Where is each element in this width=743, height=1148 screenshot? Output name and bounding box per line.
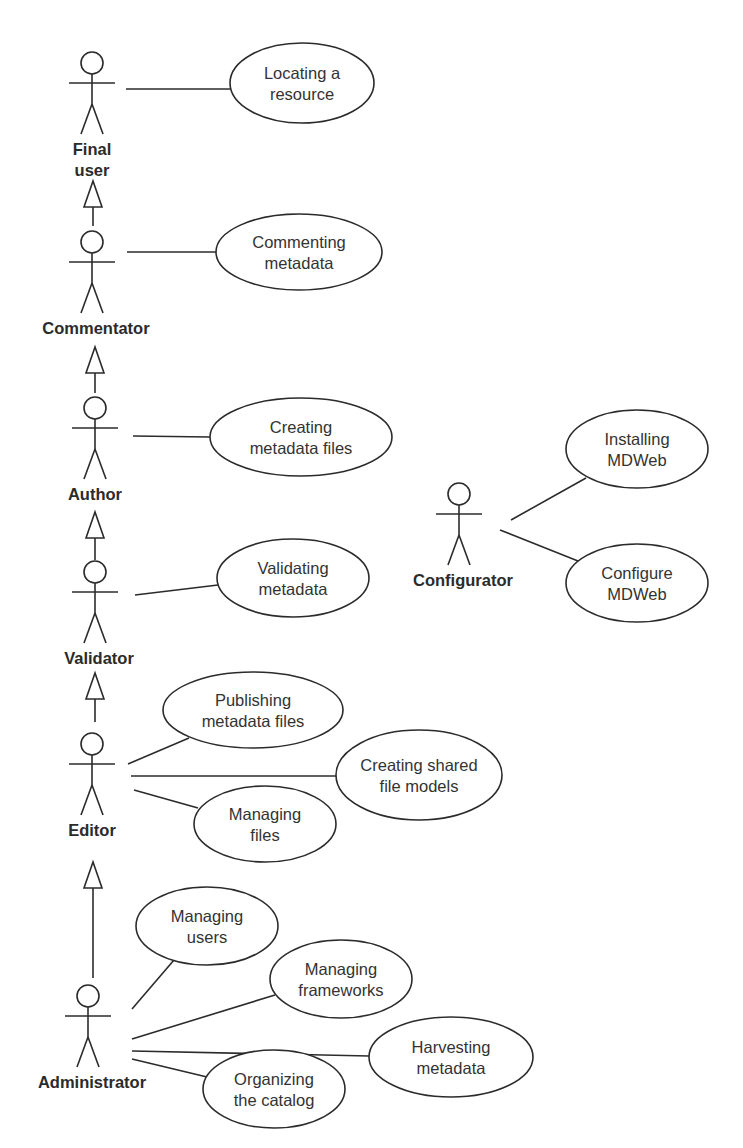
use-case-label: Managing	[305, 960, 377, 978]
association-line-configurator-installing	[511, 478, 586, 520]
use-case-label: Validating	[257, 559, 328, 577]
actor-label: user	[75, 161, 110, 179]
use-case-label: files	[250, 826, 279, 844]
use-case-label: Commenting	[252, 233, 346, 251]
use-case-ellipse	[163, 672, 343, 748]
stick-figure-icon	[69, 733, 115, 815]
hollow-triangle-arrow-icon	[86, 673, 104, 699]
use-case-label: file models	[380, 777, 459, 795]
actor-validator: Validator	[64, 561, 134, 667]
association-line-administrator-managing_frameworks	[132, 995, 275, 1039]
use-case-organizing: Organizingthe catalog	[203, 1050, 345, 1128]
stick-figure-icon	[436, 483, 482, 565]
generalization-commentator-to-final_user	[84, 181, 102, 226]
use-case-ellipse	[230, 43, 374, 123]
actor-label: Final	[73, 140, 112, 158]
generalization-author-to-commentator	[86, 347, 104, 393]
use-case-ellipse	[566, 410, 708, 488]
use-case-label: metadata files	[250, 439, 353, 457]
use-case-managing_frameworks: Managingframeworks	[270, 940, 412, 1018]
use-case-label: frameworks	[298, 981, 383, 999]
hollow-triangle-arrow-icon	[84, 862, 102, 888]
actor-editor: Editor	[68, 733, 116, 839]
use-case-label: Managing	[171, 907, 243, 925]
use-case-label: Managing	[229, 805, 301, 823]
use-case-label: Organizing	[234, 1070, 314, 1088]
use-case-harvesting: Harvestingmetadata	[369, 1017, 533, 1097]
use-case-validating: Validatingmetadata	[217, 539, 369, 617]
hollow-triangle-arrow-icon	[84, 181, 102, 207]
stick-figure-icon	[65, 985, 111, 1067]
use-case-label: the catalog	[234, 1091, 315, 1109]
stick-figure-icon	[72, 397, 118, 479]
use-case-managing_files: Managingfiles	[194, 786, 336, 862]
generalization-editor-to-validator	[86, 673, 104, 722]
actor-label: Administrator	[38, 1073, 147, 1091]
actor-label: Validator	[64, 649, 134, 667]
use-case-diagram: Locating aresourceCommentingmetadataCrea…	[0, 0, 743, 1148]
use-case-ellipse	[194, 786, 336, 862]
association-line-editor-managing_files	[134, 790, 198, 808]
use-case-label: metadata files	[202, 712, 305, 730]
use-case-ellipse	[336, 730, 502, 820]
use-case-label: Installing	[604, 430, 669, 448]
actor-commentator: Commentator	[42, 231, 150, 337]
use-case-label: MDWeb	[607, 585, 666, 603]
use-case-label: Creating shared	[360, 756, 477, 774]
generalization-validator-to-author	[86, 512, 104, 560]
association-line-validator-validating	[135, 585, 218, 595]
association-line-author-creating_files	[133, 436, 210, 437]
generalization-administrator-to-editor	[84, 862, 102, 978]
use-case-publishing: Publishingmetadata files	[163, 672, 343, 748]
stick-figure-icon	[72, 561, 118, 643]
actor-label: Editor	[68, 821, 116, 839]
actor-label: Author	[68, 485, 123, 503]
association-line-editor-publishing	[128, 738, 189, 764]
use-case-label: metadata	[259, 580, 329, 598]
actor-author: Author	[68, 397, 123, 503]
actor-configurator: Configurator	[413, 483, 513, 589]
use-case-installing: InstallingMDWeb	[566, 410, 708, 488]
use-case-label: metadata	[417, 1059, 487, 1077]
use-case-label: Creating	[270, 418, 332, 436]
hollow-triangle-arrow-icon	[86, 347, 104, 373]
hollow-triangle-arrow-icon	[86, 512, 104, 538]
actor-administrator: Administrator	[38, 985, 147, 1091]
use-case-ellipse	[216, 214, 382, 290]
use-case-ellipse	[217, 539, 369, 617]
use-case-ellipse	[566, 544, 708, 622]
use-case-label: resource	[270, 85, 334, 103]
use-case-commenting: Commentingmetadata	[216, 214, 382, 290]
use-case-label: Configure	[601, 564, 673, 582]
use-case-label: users	[187, 928, 227, 946]
use-case-label: MDWeb	[607, 451, 666, 469]
use-case-ellipse	[270, 940, 412, 1018]
use-case-configure: ConfigureMDWeb	[566, 544, 708, 622]
actor-final_user: Finaluser	[69, 52, 115, 179]
use-case-label: metadata	[265, 254, 335, 272]
use-case-ellipse	[369, 1017, 533, 1097]
association-line-configurator-configure	[500, 530, 578, 561]
use-case-locating: Locating aresource	[230, 43, 374, 123]
use-case-ellipse	[136, 887, 278, 965]
use-case-ellipse	[203, 1050, 345, 1128]
use-case-managing_users: Managingusers	[136, 887, 278, 965]
use-case-creating_files: Creatingmetadata files	[210, 398, 392, 476]
stick-figure-icon	[69, 52, 115, 134]
use-case-ellipse	[210, 398, 392, 476]
actor-label: Commentator	[42, 319, 150, 337]
use-case-label: Publishing	[215, 691, 291, 709]
stick-figure-icon	[69, 231, 115, 313]
use-case-shared_models: Creating sharedfile models	[336, 730, 502, 820]
use-case-label: Harvesting	[412, 1038, 491, 1056]
use-case-label: Locating a	[264, 64, 341, 82]
actor-label: Configurator	[413, 571, 513, 589]
association-line-administrator-managing_users	[132, 960, 174, 1009]
